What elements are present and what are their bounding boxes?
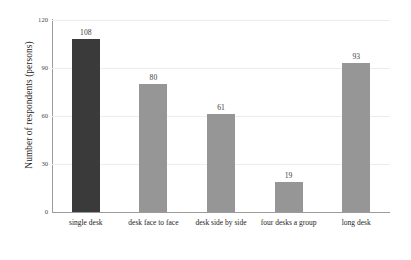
bar[interactable]: [275, 182, 303, 212]
bar-value-label: 93: [334, 52, 378, 61]
plot-area: [52, 20, 390, 212]
gridline: [52, 68, 390, 69]
gridline: [52, 20, 390, 21]
x-axis-category-label: long desk: [321, 218, 391, 229]
y-axis-tick-label: 30: [26, 160, 48, 167]
x-axis-category-label: single desk: [51, 218, 121, 229]
y-axis-tick-label: 0: [26, 208, 48, 215]
y-axis-title: Number of respondents (persons): [22, 5, 36, 205]
bar-value-label: 19: [267, 171, 311, 180]
bar-value-label: 61: [199, 103, 243, 112]
y-axis-tick-label: 60: [26, 112, 48, 119]
x-axis-category-label: four desks a group: [254, 218, 324, 229]
bar[interactable]: [72, 39, 100, 212]
x-axis-line: [52, 212, 390, 213]
x-axis-category-label: desk face to face: [118, 218, 188, 229]
bar-value-label: 108: [64, 28, 108, 37]
bar[interactable]: [207, 114, 235, 212]
y-axis-tick-label: 90: [26, 64, 48, 71]
bar-chart: Number of respondents (persons) 03060901…: [0, 0, 411, 260]
bar-value-label: 80: [131, 73, 175, 82]
x-axis-category-label: desk side by side: [186, 218, 256, 229]
bar[interactable]: [139, 84, 167, 212]
bar[interactable]: [342, 63, 370, 212]
y-axis-tick-label: 120: [26, 16, 48, 23]
